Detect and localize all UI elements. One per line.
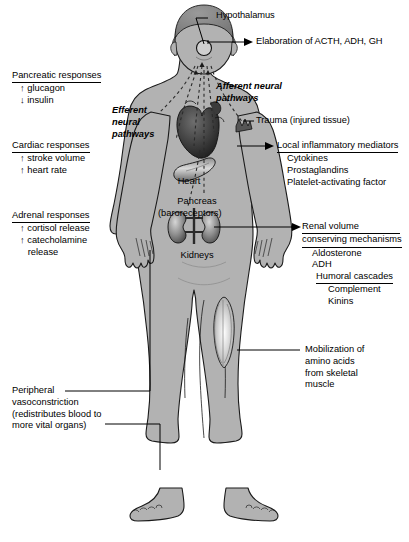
label-trauma: Trauma (injured tissue) (256, 115, 350, 127)
trauma-response-diagram: Hypothalamus Elaboration of ACTH, ADH, G… (0, 0, 409, 542)
label-efferent-pathways: Efferent neural pathways (112, 104, 154, 140)
mobilization-item-3: muscle (305, 379, 364, 391)
label-afferent-pathways: Afferent neural pathways (216, 80, 282, 104)
label-hypothalamus: Hypothalamus (216, 10, 275, 22)
label-overlay: Hypothalamus Elaboration of ACTH, ADH, G… (0, 0, 409, 542)
block-pancreatic-responses: Pancreatic responses ↑ glucagon ↓ insuli… (12, 70, 101, 107)
label-kidneys: Kidneys (164, 250, 230, 261)
label-elaboration: Elaboration of ACTH, ADH, GH (256, 36, 382, 48)
heart-name: Heart (158, 176, 220, 187)
efferent-line-2: neural (112, 116, 154, 128)
renal-item-1: ADH (302, 259, 402, 271)
peripheral-item-3: more vital organs) (12, 420, 101, 432)
cardiac-item-0: ↑ stroke volume (12, 153, 90, 165)
efferent-line-3: pathways (112, 128, 154, 140)
renal-item-0: Aldosterone (302, 248, 402, 260)
pancreatic-item-1: ↓ insulin (12, 95, 101, 107)
efferent-line-1: Efferent (112, 104, 154, 116)
pancreatic-header: Pancreatic responses (12, 70, 101, 83)
label-pancreas: Pancreas (162, 196, 232, 207)
peripheral-item-0: Peripheral (12, 385, 101, 397)
peripheral-item-2: (redistributes blood to (12, 409, 101, 421)
block-mobilization-amino-acids: Mobilization of amino acids from skeleta… (305, 344, 364, 391)
humoral-item-0: Complement (302, 284, 402, 296)
block-renal-volume: Renal volume conserving mechanisms Aldos… (302, 221, 402, 308)
mobilization-item-2: from skeletal (305, 368, 364, 380)
heart-sub: (baroreceptors) (158, 208, 220, 219)
renal-header-line-1: Renal volume (302, 221, 400, 234)
humoral-item-1: Kinins (302, 296, 402, 308)
peripheral-item-1: vasoconstriction (12, 397, 101, 409)
inflammatory-header: Local inflammatory mediators (277, 140, 398, 153)
mobilization-item-1: amino acids (305, 356, 364, 368)
afferent-line-2: pathways (216, 92, 282, 104)
adrenal-item-2: release (12, 247, 90, 259)
pancreatic-item-0: ↑ glucagon (12, 83, 101, 95)
humoral-cascades-header: Humoral cascades (316, 271, 393, 284)
afferent-line-1: Afferent neural (216, 80, 282, 92)
inflammatory-item-2: Platelet-activating factor (277, 177, 398, 189)
block-adrenal-responses: Adrenal responses ↑ cortisol release ↑ c… (12, 210, 90, 259)
cardiac-header: Cardiac responses (12, 140, 90, 153)
cardiac-item-1: ↑ heart rate (12, 165, 90, 177)
adrenal-item-0: ↑ cortisol release (12, 223, 90, 235)
block-local-inflammatory-mediators: Local inflammatory mediators Cytokines P… (277, 140, 398, 189)
inflammatory-item-0: Cytokines (277, 153, 398, 165)
mobilization-item-0: Mobilization of (305, 344, 364, 356)
adrenal-header: Adrenal responses (12, 210, 90, 223)
renal-header-line-2: conserving mechanisms (302, 234, 402, 247)
block-cardiac-responses: Cardiac responses ↑ stroke volume ↑ hear… (12, 140, 90, 177)
adrenal-item-1: ↑ catecholamine (12, 235, 90, 247)
inflammatory-item-1: Prostaglandins (277, 165, 398, 177)
block-peripheral-vasoconstriction: Peripheral vasoconstriction (redistribut… (12, 385, 101, 432)
